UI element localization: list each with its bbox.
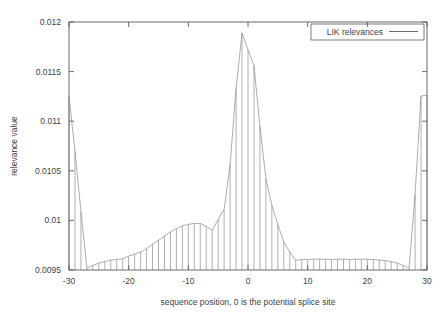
x-tick-label: 30 [422,276,432,286]
y-tick-label: 0.0105 [35,166,61,176]
x-tick-label: 20 [363,276,373,286]
legend: LIK relevances [311,24,424,40]
y-tick-label: 0.0115 [36,67,62,77]
x-tick-label: 10 [303,276,313,286]
x-tick-label: -10 [182,276,195,286]
data-impulses [69,33,427,270]
chart-figure: 0.00950.010.01050.0110.01150.012 -30-20-… [0,0,446,321]
legend-entry-label: LIK relevances [327,27,383,37]
x-tick-label: 0 [246,276,251,286]
y-tick-label: 0.011 [40,116,61,126]
y-tick-label: 0.01 [44,215,61,225]
y-axis-title: relevance value [9,116,19,176]
x-tick-label: -20 [123,276,136,286]
y-tick-label: 0.0095 [35,265,61,275]
x-axis: -30-20-100102030 [63,22,432,286]
y-axis: 0.00950.010.01050.0110.01150.012 [35,17,427,275]
y-tick-label: 0.012 [40,17,62,27]
x-axis-title: sequence position, 0 is the potential sp… [161,297,336,307]
chart-canvas: 0.00950.010.01050.0110.01150.012 -30-20-… [0,0,446,321]
x-tick-label: -30 [63,276,76,286]
